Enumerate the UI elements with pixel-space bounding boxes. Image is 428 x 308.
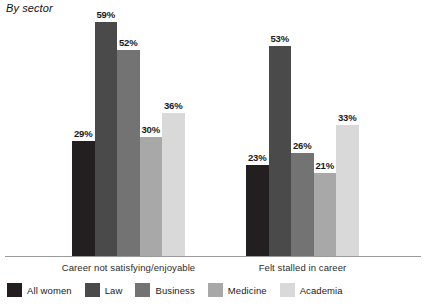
bar-medicine-group-2 [314, 173, 337, 256]
legend-swatch-icon [85, 283, 100, 297]
bar-academia-group-2 [336, 125, 359, 256]
legend-item-label: Academia [300, 285, 343, 296]
legend-item-label: Law [105, 285, 123, 296]
chart-legend: All womenLawBusinessMedicineAcademia [7, 283, 356, 297]
bar-all-women-group-2 [246, 165, 269, 256]
legend-item-label: Medicine [228, 285, 267, 296]
legend-item-label: All women [27, 285, 72, 296]
legend-item-business[interactable]: Business [135, 283, 194, 297]
legend-item-label: Business [155, 285, 194, 296]
plot-area: 29%59%52%30%36%23%53%26%21%33% [0, 0, 428, 257]
legend-swatch-icon [280, 283, 295, 297]
bar-value-label: 33% [330, 112, 365, 123]
legend-item-academia[interactable]: Academia [280, 283, 343, 297]
category-label-2: Felt stalled in career [193, 262, 413, 273]
bar-value-label: 52% [111, 37, 146, 48]
bar-value-label: 59% [89, 9, 124, 20]
bar-value-label: 26% [285, 140, 320, 151]
legend-swatch-icon [7, 283, 22, 297]
bar-law-group-1 [95, 22, 118, 256]
legend-item-all-women[interactable]: All women [7, 283, 72, 297]
x-axis-baseline [5, 256, 421, 257]
bar-value-label: 53% [263, 33, 298, 44]
bar-academia-group-1 [162, 113, 185, 256]
legend-swatch-icon [135, 283, 150, 297]
bar-medicine-group-1 [140, 137, 163, 256]
legend-swatch-icon [208, 283, 223, 297]
bar-value-label: 36% [156, 100, 191, 111]
bar-law-group-2 [269, 46, 292, 256]
legend-item-medicine[interactable]: Medicine [208, 283, 267, 297]
chart-container: By sector 29%59%52%30%36%23%53%26%21%33%… [0, 0, 428, 308]
bar-business-group-1 [117, 50, 140, 256]
legend-item-law[interactable]: Law [85, 283, 123, 297]
bar-all-women-group-1 [72, 141, 95, 256]
